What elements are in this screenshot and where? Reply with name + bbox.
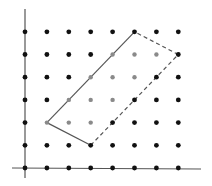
lattice-point — [110, 143, 115, 148]
lattice-point — [154, 75, 159, 80]
lattice-point — [23, 98, 28, 103]
lattice-point — [110, 120, 115, 125]
lattice-point — [88, 143, 93, 148]
lattice-point — [154, 143, 159, 148]
lattice-point — [45, 98, 50, 103]
lattice-point — [176, 166, 181, 171]
highlighted-lattice-point — [45, 120, 49, 124]
lattice-point — [45, 166, 50, 171]
lattice-point — [45, 29, 50, 34]
lattice-point — [23, 75, 28, 80]
highlighted-lattice-point — [110, 52, 114, 56]
lattice-point — [23, 29, 28, 34]
lattice-point — [132, 29, 137, 34]
lattice-point — [110, 166, 115, 171]
highlighted-lattice-point — [110, 75, 114, 79]
highlighted-lattice-point — [110, 98, 114, 102]
highlighted-lattice-point — [89, 120, 93, 124]
lattice-point — [66, 52, 71, 57]
lattice-point — [66, 29, 71, 34]
lattice-point — [176, 98, 181, 103]
lattice-point — [176, 75, 181, 80]
lattice-point — [154, 29, 159, 34]
lattice-point — [154, 98, 159, 103]
diagram-canvas — [0, 0, 212, 186]
solid-edge — [47, 123, 91, 146]
lattice-point — [66, 143, 71, 148]
lattice-point — [88, 166, 93, 171]
lattice-point — [45, 143, 50, 148]
lattice-point — [23, 120, 28, 125]
highlighted-lattice-point — [132, 52, 136, 56]
lattice-point — [154, 120, 159, 125]
axes — [12, 9, 201, 178]
highlighted-lattice-point — [132, 75, 136, 79]
lattice-point — [66, 166, 71, 171]
lattice-point — [176, 120, 181, 125]
lattice-point — [154, 166, 159, 171]
dashed-edge — [135, 32, 179, 55]
lattice-point — [66, 75, 71, 80]
lattice-point — [23, 143, 28, 148]
lattice-point — [88, 52, 93, 57]
highlighted-lattice-point — [67, 120, 71, 124]
lattice-point — [45, 52, 50, 57]
highlighted-lattice-point — [67, 98, 71, 102]
lattice-point — [132, 143, 137, 148]
highlighted-lattice-point — [89, 98, 93, 102]
x-axis — [12, 168, 201, 169]
lattice-diagram — [0, 0, 212, 186]
lattice-point — [176, 143, 181, 148]
lattice-point — [132, 166, 137, 171]
highlighted-lattice-point — [89, 75, 93, 79]
parallelogram — [47, 32, 178, 146]
lattice-point — [132, 120, 137, 125]
lattice-point — [23, 52, 28, 57]
lattice-points — [23, 29, 181, 170]
lattice-point — [176, 52, 181, 57]
lattice-point — [23, 166, 28, 171]
highlighted-lattice-point — [154, 52, 158, 56]
lattice-point — [88, 29, 93, 34]
lattice-point — [132, 98, 137, 103]
lattice-point — [45, 75, 50, 80]
lattice-point — [176, 29, 181, 34]
lattice-point — [110, 29, 115, 34]
